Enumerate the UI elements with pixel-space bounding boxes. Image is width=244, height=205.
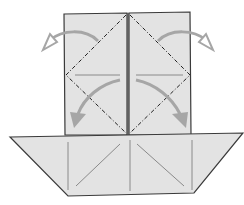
origami-diagram bbox=[0, 0, 244, 205]
diagram-canvas bbox=[0, 0, 244, 205]
base-trapezoid bbox=[10, 133, 243, 196]
boat-base bbox=[10, 133, 243, 196]
